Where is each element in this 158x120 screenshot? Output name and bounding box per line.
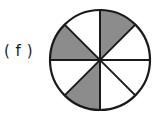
figure-panel: ( f ) [0,0,158,120]
fraction-circle-diagram [48,8,152,112]
part-label: ( f ) [4,44,48,59]
